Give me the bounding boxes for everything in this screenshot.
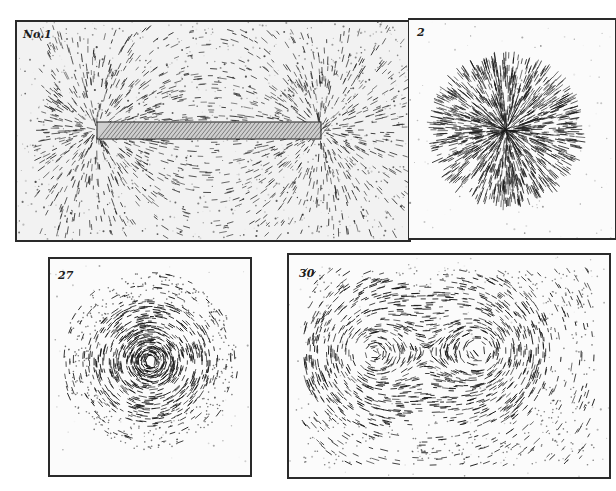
panel-label: 30: [299, 267, 314, 280]
double-circular-field-drawing: [289, 255, 609, 477]
panel-two-conductors: 30: [287, 253, 611, 479]
panel-label: 27: [58, 269, 73, 282]
radial-field-drawing: [409, 20, 615, 238]
panel-bar-magnet: No.1: [15, 20, 411, 242]
circular-field-drawing: [50, 259, 250, 475]
panel-label: 2: [417, 26, 425, 39]
panel-single-pole: 2: [408, 18, 616, 240]
bar-magnet-field-drawing: [17, 22, 409, 240]
panel-single-conductor: 27: [48, 257, 252, 477]
panel-label: No.1: [23, 28, 52, 41]
